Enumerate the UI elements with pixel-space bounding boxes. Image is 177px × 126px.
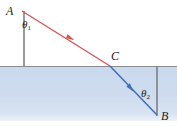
point-label-b: B (161, 110, 168, 122)
point-label-c: C (111, 50, 119, 62)
point-label-a: A (6, 5, 13, 17)
water-region (0, 66, 177, 121)
theta1-subscript: 1 (27, 24, 31, 32)
refraction-diagram: A B C θ1 θ2 (0, 0, 177, 126)
incident-ray (22, 11, 110, 66)
angle-label-theta1: θ1 (22, 19, 31, 30)
theta2-subscript: 2 (146, 93, 150, 101)
angle-label-theta2: θ2 (141, 88, 150, 99)
